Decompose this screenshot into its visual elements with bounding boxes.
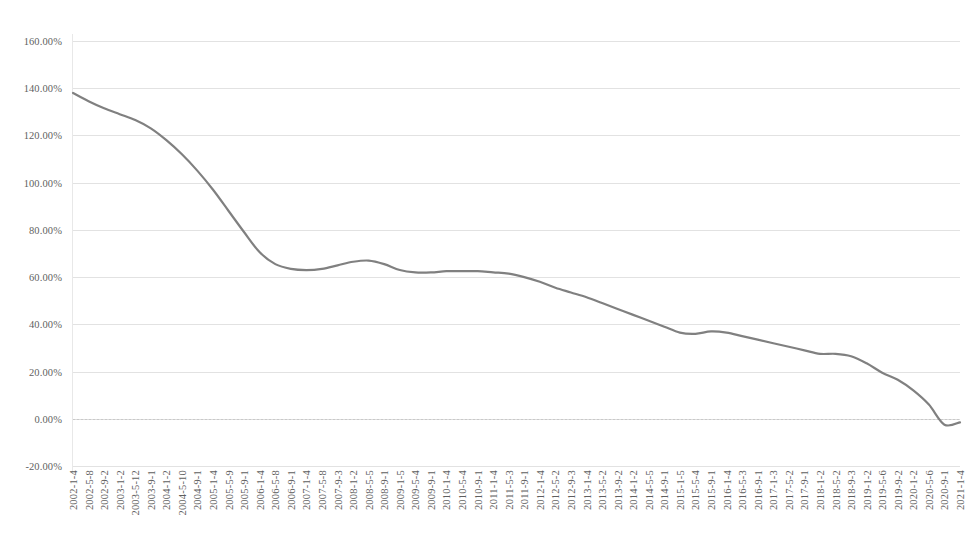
x-tick: 2009-5-4 (408, 470, 422, 556)
x-tick-label: 2009-5-4 (410, 470, 421, 510)
x-tick: 2003-9-1 (144, 470, 158, 556)
x-tick: 2004-1-2 (159, 470, 173, 556)
x-tick: 2012-1-4 (533, 470, 547, 556)
x-tick: 2007-1-4 (299, 470, 313, 556)
series-line-path (73, 93, 960, 426)
x-tick-label: 2017-1-3 (768, 470, 779, 510)
x-tick-label: 2019-5-6 (877, 470, 888, 510)
y-tick-label: 120.00% (24, 130, 62, 141)
x-tick: 2003-5-12 (128, 470, 142, 556)
y-tick-label: 20.00% (29, 366, 62, 377)
x-tick: 2008-9-1 (377, 470, 391, 556)
x-tick: 2016-1-4 (720, 470, 734, 556)
x-tick: 2002-5-8 (82, 470, 96, 556)
x-tick-label: 2010-5-4 (457, 470, 468, 510)
x-tick-label: 2020-9-1 (939, 470, 950, 510)
x-tick: 2005-5-9 (222, 470, 236, 556)
x-tick: 2004-5-10 (175, 470, 189, 556)
x-tick: 2003-1-2 (113, 470, 127, 556)
x-tick: 2010-5-4 (455, 470, 469, 556)
x-tick-label: 2019-9-2 (892, 470, 903, 510)
x-tick-label: 2005-5-9 (223, 470, 234, 510)
x-tick: 2019-5-6 (875, 470, 889, 556)
x-tick-label: 2011-1-4 (488, 470, 499, 510)
x-tick: 2008-5-5 (362, 470, 376, 556)
x-tick-label: 2015-9-1 (706, 470, 717, 510)
x-tick-label: 2003-9-1 (145, 470, 156, 510)
x-tick-label: 2016-1-4 (721, 470, 732, 510)
x-tick-label: 2015-5-4 (690, 470, 701, 510)
y-tick-label: 80.00% (29, 224, 62, 235)
x-tick-label: 2020-5-6 (923, 470, 934, 510)
y-axis: 160.00%140.00%120.00%100.00%80.00%60.00%… (0, 0, 73, 558)
x-tick: 2009-9-1 (424, 470, 438, 556)
x-tick: 2018-5-2 (829, 470, 843, 556)
x-tick-label: 2012-5-2 (550, 470, 561, 510)
x-tick-label: 2012-9-3 (565, 470, 576, 510)
x-tick: 2018-9-3 (844, 470, 858, 556)
x-tick: 2021-1-4 (953, 470, 967, 556)
x-tick-label: 2021-1-4 (955, 470, 966, 510)
x-tick-label: 2005-1-4 (208, 470, 219, 510)
x-tick-label: 2002-9-2 (99, 470, 110, 510)
x-tick: 2014-5-5 (642, 470, 656, 556)
x-tick-label: 2015-1-5 (674, 470, 685, 510)
x-tick-label: 2017-5-2 (783, 470, 794, 510)
x-tick-label: 2016-5-3 (737, 470, 748, 510)
x-tick: 2017-1-3 (766, 470, 780, 556)
y-tick-label: 160.00% (24, 36, 62, 47)
x-tick: 2016-5-3 (735, 470, 749, 556)
x-tick: 2020-9-1 (937, 470, 951, 556)
plot-area (73, 41, 960, 466)
x-tick: 2020-1-2 (906, 470, 920, 556)
x-tick-label: 2014-9-1 (659, 470, 670, 510)
x-tick-label: 2011-9-1 (519, 470, 530, 510)
x-tick: 2002-1-4 (66, 470, 80, 556)
x-tick: 2009-1-5 (393, 470, 407, 556)
x-tick-label: 2004-9-1 (192, 470, 203, 510)
x-tick-label: 2003-5-12 (130, 470, 141, 516)
x-tick: 2018-1-2 (813, 470, 827, 556)
x-tick: 2002-9-2 (97, 470, 111, 556)
x-tick: 2019-1-2 (860, 470, 874, 556)
x-tick-label: 2006-9-1 (285, 470, 296, 510)
y-tick-label: 40.00% (29, 319, 62, 330)
y-tick-label: 100.00% (24, 177, 62, 188)
x-tick-label: 2007-1-4 (301, 470, 312, 510)
x-tick-label: 2018-1-2 (814, 470, 825, 510)
x-tick: 2015-1-5 (673, 470, 687, 556)
x-tick-label: 2016-9-1 (752, 470, 763, 510)
x-tick: 2012-5-2 (548, 470, 562, 556)
x-tick: 2005-1-4 (206, 470, 220, 556)
x-tick-label: 2010-9-1 (472, 470, 483, 510)
x-tick-label: 2013-1-4 (581, 470, 592, 510)
x-tick: 2006-9-1 (284, 470, 298, 556)
x-tick: 2011-9-1 (517, 470, 531, 556)
x-tick-label: 2002-1-4 (68, 470, 79, 510)
x-tick-label: 2009-1-5 (394, 470, 405, 510)
x-tick: 2017-9-1 (797, 470, 811, 556)
x-tick-label: 2004-5-10 (176, 470, 187, 516)
x-tick-label: 2006-1-4 (254, 470, 265, 510)
x-tick-label: 2007-5-8 (316, 470, 327, 510)
x-tick: 2019-9-2 (891, 470, 905, 556)
x-tick: 2020-5-6 (922, 470, 936, 556)
x-tick-label: 2012-1-4 (534, 470, 545, 510)
x-tick: 2013-5-2 (595, 470, 609, 556)
x-tick: 2011-5-3 (502, 470, 516, 556)
x-tick: 2007-9-3 (331, 470, 345, 556)
x-tick-label: 2013-9-2 (612, 470, 623, 510)
x-tick-label: 2008-9-1 (379, 470, 390, 510)
y-tick-label: -20.00% (25, 461, 62, 472)
x-tick: 2008-1-2 (346, 470, 360, 556)
x-tick: 2006-1-4 (253, 470, 267, 556)
x-tick: 2011-1-4 (486, 470, 500, 556)
x-tick-label: 2014-1-2 (628, 470, 639, 510)
line-chart: 160.00%140.00%120.00%100.00%80.00%60.00%… (0, 0, 976, 558)
x-axis: 2002-1-42002-5-82002-9-22003-1-22003-5-1… (73, 466, 960, 558)
x-tick: 2005-9-1 (237, 470, 251, 556)
x-tick: 2006-5-8 (268, 470, 282, 556)
x-tick-label: 2008-1-2 (348, 470, 359, 510)
x-tick-label: 2006-5-8 (270, 470, 281, 510)
x-tick-label: 2019-1-2 (861, 470, 872, 510)
